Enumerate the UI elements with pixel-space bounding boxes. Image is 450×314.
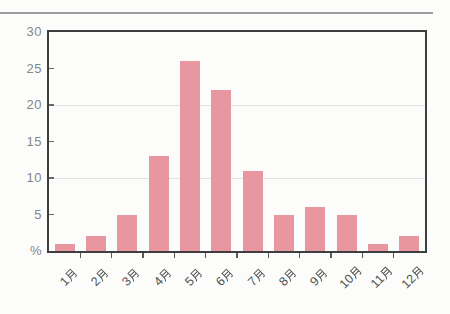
bar-9月 bbox=[305, 207, 325, 251]
y-tick-5 bbox=[49, 214, 54, 216]
x-tick-5 bbox=[205, 253, 207, 258]
y-tick-10 bbox=[49, 177, 54, 179]
x-tick-10 bbox=[362, 253, 364, 258]
gridline-20 bbox=[49, 105, 425, 106]
top-rule-line bbox=[0, 12, 433, 14]
bar-3月 bbox=[117, 215, 137, 252]
y-axis-label-10: 10 bbox=[6, 170, 42, 186]
scanned-chart-page: 30252015105% 1 2 3 4 5 6 7 bbox=[0, 0, 450, 314]
y-tick-15 bbox=[49, 141, 54, 143]
bar-11月 bbox=[368, 244, 388, 251]
bar-4月 bbox=[149, 156, 169, 251]
x-tick-9 bbox=[330, 253, 332, 258]
x-tick-4 bbox=[174, 253, 176, 258]
y-axis-label-15: 15 bbox=[6, 134, 42, 150]
bar-5月 bbox=[180, 61, 200, 251]
y-axis-label-5: 5 bbox=[6, 207, 42, 223]
bar-6月 bbox=[211, 90, 231, 251]
x-tick-3 bbox=[142, 253, 144, 258]
x-axis-label-8月: 8 bbox=[276, 265, 300, 289]
x-axis-label-11月: 11 bbox=[368, 263, 396, 291]
x-axis-label-5月: 5 bbox=[182, 265, 206, 289]
y-axis-label-20: 20 bbox=[6, 97, 42, 113]
x-axis-label-3月: 3 bbox=[120, 265, 144, 289]
x-axis-label-6月: 6 bbox=[214, 265, 238, 289]
x-axis-label-7月: 7 bbox=[245, 265, 269, 289]
y-tick-25 bbox=[49, 68, 54, 70]
x-tick-7 bbox=[268, 253, 270, 258]
x-axis-label-10月: 10 bbox=[336, 263, 365, 292]
bar-7月 bbox=[243, 171, 263, 251]
x-tick-11 bbox=[393, 253, 395, 258]
y-axis-label-30: 30 bbox=[6, 24, 42, 40]
bar-8月 bbox=[274, 215, 294, 252]
bar-1月 bbox=[55, 244, 75, 251]
x-axis-label-1月: 1 bbox=[57, 265, 81, 289]
y-axis-label-25: 25 bbox=[6, 61, 42, 77]
x-axis-label-12月: 12 bbox=[399, 263, 428, 292]
gridline-10 bbox=[49, 178, 425, 179]
x-axis-label-9月: 9 bbox=[308, 265, 332, 289]
x-axis-label-4月: 4 bbox=[151, 265, 175, 289]
y-axis-label-%: % bbox=[6, 243, 42, 259]
bar-2月 bbox=[86, 236, 106, 251]
x-tick-8 bbox=[299, 253, 301, 258]
y-tick-20 bbox=[49, 104, 54, 106]
x-tick-6 bbox=[236, 253, 238, 258]
plot-area bbox=[49, 32, 425, 251]
x-tick-2 bbox=[111, 253, 113, 258]
x-tick-1 bbox=[80, 253, 82, 258]
bar-12月 bbox=[399, 236, 419, 251]
bar-10月 bbox=[337, 215, 357, 252]
x-axis-label-2月: 2 bbox=[88, 265, 112, 289]
